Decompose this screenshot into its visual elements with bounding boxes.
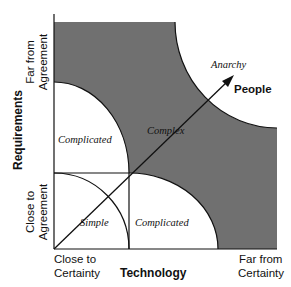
y-axis-title: Requirements (11, 90, 25, 170)
people-axis-label: People (234, 83, 272, 95)
y-low-label-line1: Close to (24, 191, 36, 233)
stacey-matrix-diagram: Simple Complicated Complicated Complex A… (0, 0, 291, 287)
y-low-label-line2: Agreement (37, 183, 49, 240)
x-low-label-line2: Certainty (54, 267, 100, 279)
y-high-label-line1: Far from (24, 40, 36, 83)
x-low-label-line1: Close to (54, 253, 96, 265)
complicated-technology-label: Complicated (135, 217, 189, 228)
anarchy-label: Anarchy (210, 59, 247, 70)
x-high-label-line1: Far from (239, 253, 282, 265)
x-high-label-line2: Certainty (238, 267, 284, 279)
y-high-label-line2: Agreement (37, 33, 49, 90)
x-axis-title: Technology (120, 266, 187, 280)
complex-label: Complex (147, 125, 185, 136)
simple-label: Simple (80, 217, 109, 228)
complicated-requirements-label: Complicated (58, 134, 112, 145)
